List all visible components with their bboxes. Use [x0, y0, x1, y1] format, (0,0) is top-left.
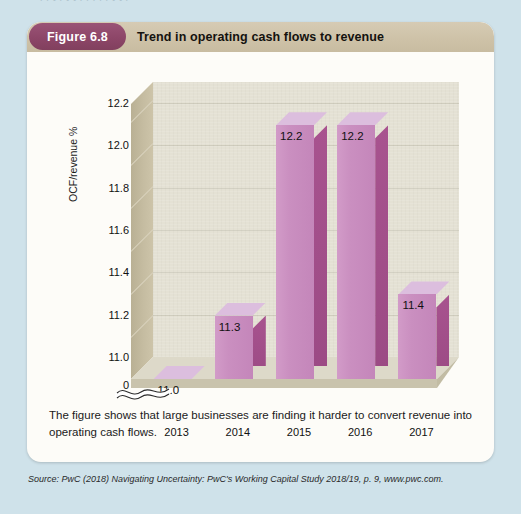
bar-value-label: 11.4 — [402, 299, 424, 311]
y-axis-tick: 11.0 — [108, 351, 129, 363]
figure-caption: The figure shows that large businesses a… — [27, 397, 494, 462]
chart-area: OCF/revenue % 11.011.211.411.611.812.012… — [27, 52, 494, 397]
figure-number-badge: Figure 6.8 — [29, 23, 126, 50]
bar-side-face — [375, 125, 388, 379]
bar — [276, 125, 314, 379]
bar-value-label: 12.2 — [280, 130, 302, 142]
plot-3d: 11.011.312.212.211.4 — [131, 82, 477, 392]
plot-left-wall — [131, 82, 153, 392]
figure-source: Source: PwC (2018) Navigating Uncertaint… — [28, 474, 498, 484]
left-wall-gridline — [131, 143, 154, 166]
figure-card: Figure 6.8 Trend in operating cash flows… — [27, 22, 494, 462]
left-wall-gridline — [131, 100, 154, 123]
y-axis-title: OCF/revenue % — [67, 127, 79, 202]
y-axis-tick: 11.2 — [108, 309, 129, 321]
figure-title: Trend in operating cash flows to revenue — [137, 22, 384, 52]
bar-front-face — [337, 125, 375, 379]
y-axis-tick-labels: 11.011.211.411.611.812.012.20 — [85, 52, 129, 397]
bar-value-label: 12.2 — [341, 130, 363, 142]
page-top-edge: i l t i t t l f i l i t t i — [0, 0, 521, 14]
y-axis-tick: 11.6 — [108, 224, 129, 236]
bar-front-face — [276, 125, 314, 379]
bar-value-label: 11.3 — [219, 321, 241, 333]
gridline — [153, 103, 459, 104]
left-wall-gridline — [131, 272, 154, 295]
left-wall-gridline — [131, 186, 154, 209]
y-axis-tick: 11.8 — [108, 182, 129, 194]
left-wall-gridline — [131, 315, 154, 338]
y-axis-tick: 12.0 — [108, 139, 129, 151]
y-axis-tick: 12.2 — [108, 97, 129, 109]
bar-side-face — [314, 125, 327, 379]
left-wall-gridline — [131, 229, 154, 252]
cut-off-text: i l t i t t l f i l i t t i — [40, 0, 128, 3]
bar — [337, 125, 375, 379]
figure-header: Figure 6.8 Trend in operating cash flows… — [27, 22, 494, 52]
y-axis-tick: 11.4 — [108, 266, 129, 278]
figure-number-label: Figure 6.8 — [47, 30, 108, 44]
